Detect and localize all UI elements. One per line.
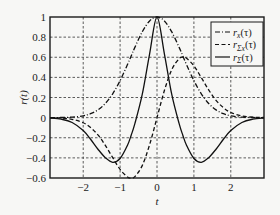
y-tick-label: −0.2 <box>26 132 46 144</box>
x-tick-label: 0 <box>154 181 160 193</box>
x-tick-label: −1 <box>114 181 126 193</box>
y-tick-label: 0.4 <box>32 71 46 83</box>
y-axis-label: r(t) <box>17 90 30 105</box>
y-tick-label: 0.8 <box>32 31 46 43</box>
y-tick-label: 0 <box>41 112 47 124</box>
y-tick-label: −0.6 <box>26 172 46 184</box>
y-tick-label: 0.2 <box>32 92 46 104</box>
x-tick-label: 2 <box>228 181 234 193</box>
y-tick-label: 1 <box>41 11 47 23</box>
x-tick-label: 1 <box>191 181 197 193</box>
legend: rx(τ)rΣx(τ)rΣ(τ) <box>211 22 263 66</box>
chart: −0.6−0.4−0.200.20.40.60.81 −2−1012 t r(t… <box>0 0 280 215</box>
y-tick-label: 0.6 <box>32 51 46 63</box>
x-tick-label: −2 <box>77 181 89 193</box>
y-tick-label: −0.4 <box>26 152 46 164</box>
